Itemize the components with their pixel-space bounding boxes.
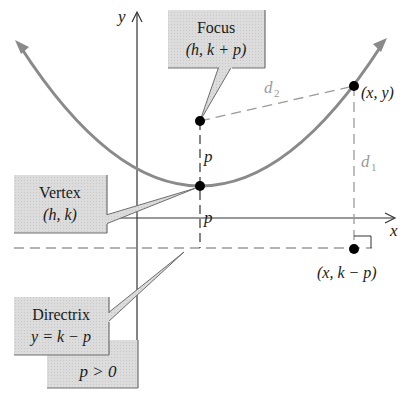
focus-point [195,116,205,126]
x-axis [112,213,395,223]
focus-title: Focus [197,19,235,36]
focus-callout: Focus (h, k + p) [168,10,265,121]
p-label-upper: p [203,147,213,166]
directrix-point [349,244,359,254]
directrix-callout: Directrix y = k − p [14,252,184,355]
svg-text:d: d [361,152,370,171]
directrix-point-label: (x, k − p) [317,264,377,282]
vertex-point [195,181,205,191]
vertex-title: Vertex [39,184,81,201]
y-axis [132,12,142,360]
d1-label: d 1 [361,152,377,173]
focus-coords: (h, k + p) [186,41,247,59]
directrix-equation: y = k − p [29,328,91,346]
svg-text:d: d [264,78,273,97]
svg-text:2: 2 [274,87,280,99]
d2-label: d 2 [264,78,280,99]
parabola-point [349,81,359,91]
vertex-callout: Vertex (h, k) [14,175,196,233]
parabola-diagram: Focus (h, k + p) Vertex (h, k) p > 0 Dir… [0,0,408,411]
directrix-title: Directrix [32,306,90,323]
svg-text:1: 1 [371,161,377,173]
parabola-point-label: (x, y) [361,84,394,102]
x-axis-label: x [389,221,398,240]
vertex-coords: (h, k) [43,206,77,224]
p-label-lower: p [203,208,213,227]
condition-text: p > 0 [79,362,117,381]
y-axis-label: y [116,7,126,26]
